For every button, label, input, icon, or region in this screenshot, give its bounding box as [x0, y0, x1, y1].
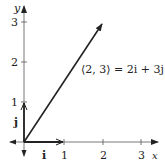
- unit-vector-j-label: j: [14, 117, 18, 128]
- x-axis-negative-arrow-icon: [9, 140, 16, 145]
- y-tick-label-3: 3: [11, 17, 18, 28]
- y-axis-label: y: [14, 3, 20, 14]
- y-tick-label-2: 2: [11, 57, 18, 68]
- y-tick-label-1: 1: [11, 97, 18, 108]
- x-tick-label-2: 2: [100, 150, 107, 161]
- unit-vector-i-label: i: [42, 150, 46, 161]
- x-axis-label: x: [152, 151, 158, 161]
- vector-label: ⟨2, 3⟩ = 2i + 3j: [81, 64, 164, 75]
- x-tick-label-3: 3: [138, 150, 145, 161]
- vector-diagram: [0, 0, 165, 168]
- y-axis-negative-arrow-icon: [22, 150, 27, 157]
- vector-2-3: [24, 24, 102, 142]
- x-tick-label-1: 1: [61, 150, 68, 161]
